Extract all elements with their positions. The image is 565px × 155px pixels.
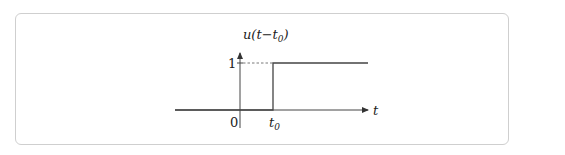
x-tick-label-zero: 0 (230, 116, 238, 129)
y-tick-label-one: 1 (228, 57, 236, 70)
x-tick-label-t0: t0 (269, 116, 280, 132)
y-axis-label: u(t−t0) (243, 28, 289, 44)
x-axis-label: t (373, 104, 378, 117)
step-curve (175, 63, 368, 110)
step-function-plot (0, 0, 565, 155)
